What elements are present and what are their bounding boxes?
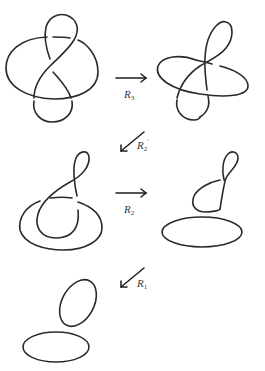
knot-5: [23, 273, 104, 362]
move-label-r3: R3: [123, 88, 135, 102]
move-r3: R3: [116, 74, 146, 102]
move-r2-prime: R2': [121, 132, 149, 153]
reidemeister-diagram: R3 R2' R2: [0, 0, 265, 371]
knot-4: [162, 152, 242, 247]
knot-3: [20, 152, 102, 250]
move-r1: R1: [121, 268, 148, 291]
knot-1: [6, 15, 98, 123]
move-label-r2-prime: R2': [136, 137, 149, 153]
move-label-r1: R1: [136, 277, 148, 291]
move-r2: R2: [116, 189, 146, 217]
move-label-r2: R2: [123, 203, 135, 217]
knot-2: [157, 22, 248, 120]
